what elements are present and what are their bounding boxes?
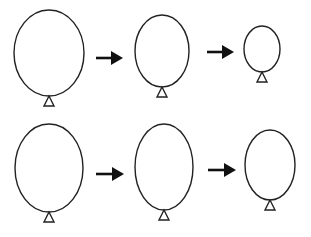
balloon-knot-icon (44, 96, 54, 106)
balloon-body (15, 124, 83, 212)
balloon-body (244, 26, 280, 72)
balloon (135, 124, 193, 220)
balloon (135, 15, 189, 97)
balloon-knot-icon (44, 212, 54, 222)
balloon (244, 26, 280, 82)
balloon-body (14, 10, 84, 96)
arrow-right-icon (207, 45, 234, 59)
balloon-knot-icon (159, 210, 169, 220)
balloon-knot-icon (257, 72, 267, 82)
arrow-right-icon (96, 167, 124, 181)
arrow-right-icon (96, 51, 123, 65)
balloon-body (135, 124, 193, 210)
balloon-knot-icon (265, 200, 275, 210)
balloon-knot-icon (157, 87, 167, 97)
row-2 (15, 124, 295, 222)
balloon (15, 124, 83, 222)
balloon-body (135, 15, 189, 87)
balloon-body (245, 130, 295, 200)
row-1-shrinking (14, 10, 280, 106)
arrow-right-icon (208, 163, 236, 177)
balloon-diagram (0, 0, 311, 237)
balloon (245, 130, 295, 210)
balloon (14, 10, 84, 106)
